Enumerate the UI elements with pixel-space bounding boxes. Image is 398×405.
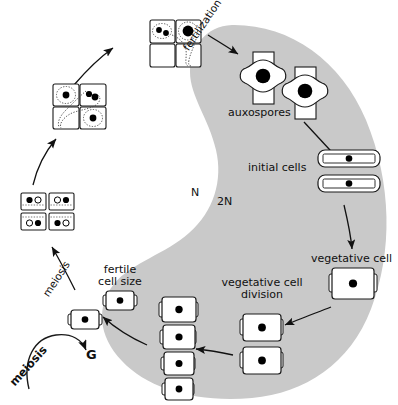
cell-group-gametangia <box>21 193 74 230</box>
cell-division-2 <box>240 347 283 374</box>
label-fertile-cell-size: fertile cell size <box>87 264 153 289</box>
diatom-life-cycle-diagram: fertilization auxospores initial cells N… <box>0 0 398 405</box>
cell-vegetative <box>329 268 377 299</box>
label-vegetative-cell-division: vegetative cell division <box>214 277 310 302</box>
diagram-graphics <box>0 0 398 405</box>
arrow-gametes-to-fusion <box>74 48 113 85</box>
cell-size-series-1 <box>159 297 198 322</box>
label-gamete-stage-g: G <box>86 348 97 363</box>
label-diploid-2n: 2N <box>217 196 232 208</box>
cell-size-series-2 <box>160 325 196 349</box>
cell-initial-1 <box>318 150 380 167</box>
cell-fertile-1 <box>103 291 137 310</box>
cell-initial-2 <box>318 175 380 192</box>
arrow-gametangia-to-gametes <box>33 139 56 185</box>
label-auxospores: auxospores <box>228 107 291 119</box>
cell-group-gametes <box>53 84 106 129</box>
label-vegetative-cell: vegetative cell <box>311 253 392 265</box>
label-haploid-n: N <box>191 187 199 199</box>
cell-fertile-2 <box>68 310 102 329</box>
label-initial-cells: initial cells <box>248 162 306 174</box>
cell-size-series-3 <box>161 352 195 375</box>
cell-division-1 <box>240 314 283 341</box>
cell-size-series-4 <box>162 378 194 400</box>
